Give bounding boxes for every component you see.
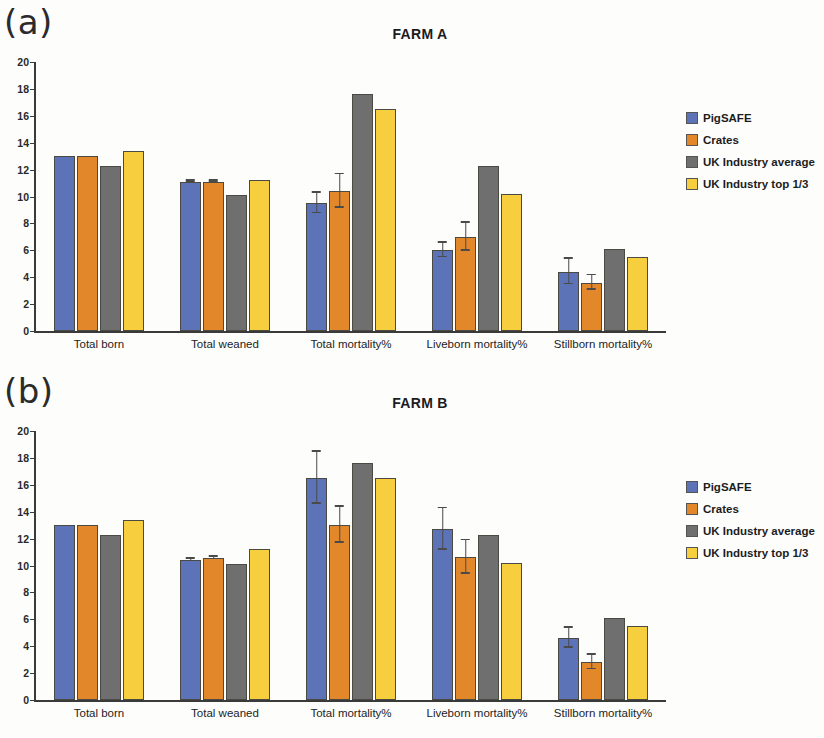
x-axis-line	[34, 700, 666, 702]
bar[interactable]	[581, 662, 602, 700]
legend-swatch-icon	[686, 481, 698, 493]
bar[interactable]	[180, 182, 201, 331]
bar-slot	[226, 431, 247, 700]
y-axis-tick-mark	[30, 646, 34, 647]
y-axis-tick-label: 8	[3, 217, 29, 229]
bar-slot	[501, 431, 522, 700]
error-bar	[568, 257, 570, 284]
bar[interactable]	[77, 156, 98, 331]
y-axis-tick-label: 20	[3, 425, 29, 437]
bar-group	[36, 431, 162, 700]
bar-slot	[581, 62, 602, 331]
legend-item[interactable]: UK Industry average	[686, 156, 815, 168]
bar[interactable]	[180, 560, 201, 700]
legend-item[interactable]: UK Industry top 1/3	[686, 547, 815, 559]
legend-item[interactable]: Crates	[686, 503, 815, 515]
bar[interactable]	[558, 638, 579, 700]
error-bar	[316, 191, 318, 213]
legend-item[interactable]: PigSAFE	[686, 112, 815, 124]
bar[interactable]	[627, 626, 648, 700]
bar-group	[162, 62, 288, 331]
bar[interactable]	[501, 194, 522, 331]
bar-slot	[249, 431, 270, 700]
bar[interactable]	[478, 535, 499, 700]
y-axis-tick-mark	[30, 62, 34, 63]
bar[interactable]	[306, 203, 327, 331]
bar[interactable]	[352, 94, 373, 331]
legend-item[interactable]: PigSAFE	[686, 481, 815, 493]
bar-slot	[581, 431, 602, 700]
bar[interactable]	[100, 535, 121, 700]
bar-slot	[604, 62, 625, 331]
plot-area-b: 02468101214161820	[34, 431, 666, 701]
legend-item[interactable]: Crates	[686, 134, 815, 146]
bar-slot	[501, 62, 522, 331]
y-axis-tick-mark	[30, 89, 34, 90]
error-bar	[568, 626, 570, 648]
bar[interactable]	[249, 180, 270, 331]
y-axis-tick-mark	[30, 277, 34, 278]
y-axis-tick-label: 4	[3, 640, 29, 652]
bar[interactable]	[558, 272, 579, 331]
legend-swatch-icon	[686, 112, 698, 124]
bar[interactable]	[581, 283, 602, 331]
bar[interactable]	[627, 257, 648, 331]
category-label: Liveborn mortality%	[414, 707, 540, 719]
y-axis-tick-label: 12	[3, 164, 29, 176]
bar-slot	[306, 62, 327, 331]
y-axis-tick-mark	[30, 223, 34, 224]
legend-item[interactable]: UK Industry average	[686, 525, 815, 537]
bar[interactable]	[604, 249, 625, 331]
bar[interactable]	[329, 191, 350, 331]
y-axis-tick-mark	[30, 592, 34, 593]
bar[interactable]	[77, 525, 98, 700]
legend-label: Crates	[703, 134, 739, 146]
y-axis-tick-label: 6	[3, 244, 29, 256]
bar[interactable]	[249, 549, 270, 700]
error-bar	[465, 221, 467, 251]
bar-slot	[375, 62, 396, 331]
error-bar	[316, 450, 318, 504]
bar[interactable]	[306, 478, 327, 700]
bar[interactable]	[604, 618, 625, 700]
bar[interactable]	[203, 182, 224, 331]
bar-slot	[329, 62, 350, 331]
category-label: Stillborn mortality%	[540, 338, 666, 350]
y-axis-tick-mark	[30, 197, 34, 198]
bar[interactable]	[432, 529, 453, 700]
bar[interactable]	[54, 156, 75, 331]
bar[interactable]	[123, 520, 144, 700]
bar[interactable]	[203, 558, 224, 700]
y-axis-tick-mark	[30, 170, 34, 171]
bar[interactable]	[329, 525, 350, 700]
chart-title-farm-b: FARM B	[330, 395, 510, 411]
y-axis-tick-label: 18	[3, 83, 29, 95]
bar[interactable]	[455, 557, 476, 700]
bar[interactable]	[501, 563, 522, 700]
bar[interactable]	[54, 525, 75, 700]
bar[interactable]	[226, 564, 247, 700]
bar-slot	[432, 62, 453, 331]
legend-swatch-icon	[686, 547, 698, 559]
bar-slot	[455, 431, 476, 700]
bar-slot	[77, 431, 98, 700]
bar[interactable]	[375, 478, 396, 700]
bar[interactable]	[432, 250, 453, 331]
bar[interactable]	[352, 463, 373, 700]
y-axis-tick-mark	[30, 673, 34, 674]
legend-swatch-icon	[686, 525, 698, 537]
bar[interactable]	[100, 166, 121, 331]
y-axis-tick-mark	[30, 485, 34, 486]
bar[interactable]	[226, 195, 247, 331]
bar[interactable]	[123, 151, 144, 331]
bar[interactable]	[455, 237, 476, 331]
bar-slot	[455, 62, 476, 331]
legend-item[interactable]: UK Industry top 1/3	[686, 178, 815, 190]
chart-title-farm-a: FARM A	[330, 26, 510, 42]
bar[interactable]	[375, 109, 396, 331]
bar-group	[162, 431, 288, 700]
bar[interactable]	[478, 166, 499, 331]
y-axis-tick-mark	[30, 539, 34, 540]
y-axis-tick-label: 4	[3, 271, 29, 283]
y-axis-tick-mark	[30, 512, 34, 513]
